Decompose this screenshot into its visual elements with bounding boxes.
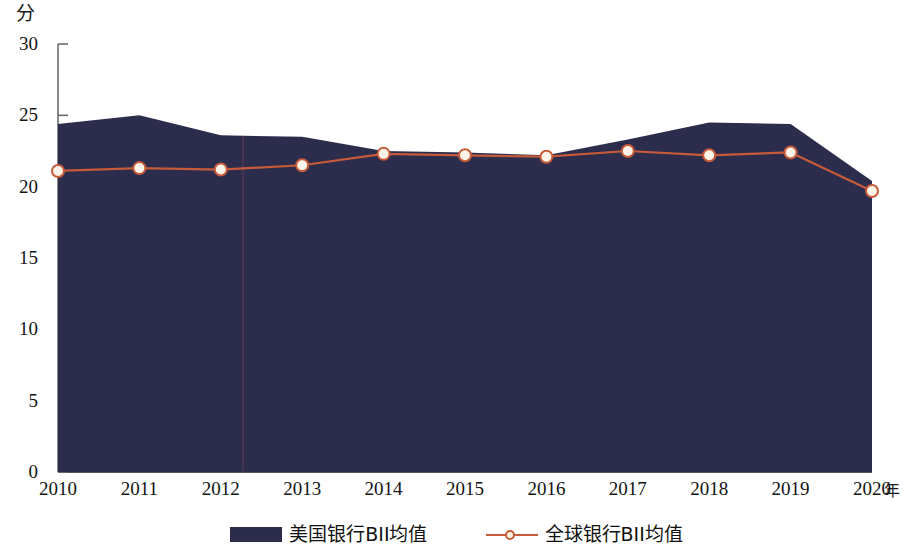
x-axis-tick-label: 2017 (588, 478, 668, 500)
legend-area-swatch-icon (230, 527, 282, 542)
x-axis-tick-label: 2015 (425, 478, 505, 500)
x-axis-tick-label: 2020 (832, 478, 912, 500)
x-axis-tick-label: 2019 (751, 478, 831, 500)
x-axis-tick-label: 2016 (506, 478, 586, 500)
legend-label-us-bank-bii: 美国银行BII均值 (289, 524, 427, 545)
x-axis-unit-label: 年 (884, 482, 900, 500)
x-axis-tick-label: 2014 (344, 478, 424, 500)
data-point-marker (296, 159, 308, 171)
data-point-marker (540, 151, 552, 163)
data-point-marker (703, 149, 715, 161)
x-axis-tick-label: 2012 (181, 478, 261, 500)
x-axis-tick-labels: 2010201120122013201420152016201720182019… (0, 478, 913, 506)
data-point-marker (52, 165, 64, 177)
chart-legend: 美国银行BII均值 全球银行BII均值 (0, 516, 913, 553)
legend-item-us-bank-bii: 美国银行BII均值 (230, 524, 427, 545)
x-axis-tick-label: 2013 (262, 478, 342, 500)
legend-line-marker-swatch-icon (486, 528, 538, 542)
x-axis-tick-label: 2018 (669, 478, 749, 500)
data-point-marker (215, 164, 227, 176)
data-point-marker (378, 148, 390, 160)
legend-label-global-bank-bii: 全球银行BII均值 (545, 524, 683, 545)
x-axis-tick-label: 2010 (18, 478, 98, 500)
data-point-marker (866, 185, 878, 197)
chart-container: 分 051015202530 2010201120122013201420152… (0, 0, 913, 553)
data-point-marker (785, 146, 797, 158)
data-point-marker (622, 145, 634, 157)
data-point-marker (133, 162, 145, 174)
legend-circle-marker-icon (505, 530, 515, 540)
plot-area (0, 0, 913, 553)
x-axis-tick-label: 2011 (99, 478, 179, 500)
data-point-marker (459, 149, 471, 161)
legend-item-global-bank-bii: 全球银行BII均值 (486, 524, 683, 545)
